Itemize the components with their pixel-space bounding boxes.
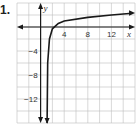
svg-text:−12: −12 xyxy=(24,95,38,104)
graph: 4812−4−8−12xy xyxy=(0,0,137,135)
svg-text:12: 12 xyxy=(107,30,116,39)
svg-text:−4: −4 xyxy=(28,47,38,56)
svg-text:−8: −8 xyxy=(28,71,38,80)
svg-text:4: 4 xyxy=(62,30,67,39)
svg-text:y: y xyxy=(43,3,48,13)
svg-text:8: 8 xyxy=(86,30,91,39)
svg-text:x: x xyxy=(126,29,131,39)
grid-lines xyxy=(17,3,135,123)
